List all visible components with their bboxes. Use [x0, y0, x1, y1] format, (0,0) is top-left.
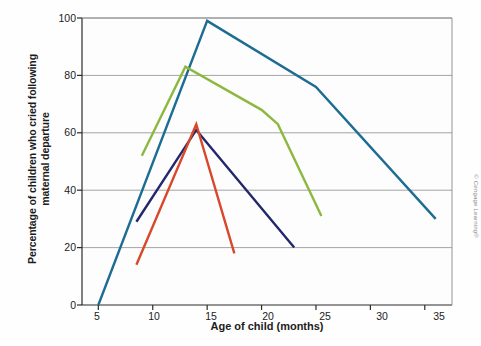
chart-figure: Percentage of children who cried followi…	[0, 0, 481, 346]
plot-area	[0, 0, 481, 346]
